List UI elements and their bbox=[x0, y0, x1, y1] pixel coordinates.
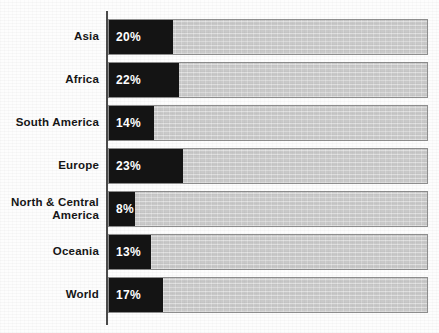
bar-value-label: 14% bbox=[116, 116, 141, 130]
bar-track: 14% bbox=[108, 105, 428, 141]
category-label-oceania: Oceania bbox=[0, 245, 99, 259]
category-label-south-america: South America bbox=[0, 116, 99, 130]
bar-value-label: 8% bbox=[116, 202, 134, 216]
bar-row: Oceania13% bbox=[0, 234, 439, 270]
bar-track: 17% bbox=[108, 277, 428, 313]
category-label-north-central-america: North & Central America bbox=[0, 196, 99, 223]
bar-value-label: 17% bbox=[116, 288, 141, 302]
category-label-europe: Europe bbox=[0, 159, 99, 173]
bar-value-label: 23% bbox=[116, 159, 141, 173]
bar-row: Africa22% bbox=[0, 62, 439, 98]
bar-row: South America14% bbox=[0, 105, 439, 141]
bar-row: Europe23% bbox=[0, 148, 439, 184]
bar-track: 13% bbox=[108, 234, 428, 270]
bar-track: 8% bbox=[108, 191, 428, 227]
category-label-asia: Asia bbox=[0, 30, 99, 44]
bar-track: 23% bbox=[108, 148, 428, 184]
bar-row: World17% bbox=[0, 277, 439, 313]
bar-track: 22% bbox=[108, 62, 428, 98]
bar-value-label: 22% bbox=[116, 73, 141, 87]
horizontal-bar-chart: Asia20%Africa22%South America14%Europe23… bbox=[0, 0, 439, 333]
bar-value-label: 13% bbox=[116, 245, 141, 259]
chart-rows: Asia20%Africa22%South America14%Europe23… bbox=[0, 0, 439, 333]
bar-track: 20% bbox=[108, 19, 428, 55]
bar-row: Asia20% bbox=[0, 19, 439, 55]
category-label-africa: Africa bbox=[0, 73, 99, 87]
category-label-world: World bbox=[0, 288, 99, 302]
bar-value-label: 20% bbox=[116, 30, 141, 44]
bar-row: North & Central America8% bbox=[0, 191, 439, 227]
